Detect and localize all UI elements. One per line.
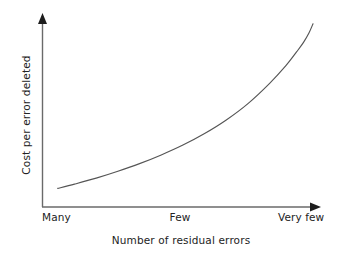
- x-tick-label-very-few: Very few: [278, 211, 322, 223]
- y-axis-arrow-icon: [38, 13, 47, 24]
- x-tick-label-few: Few: [163, 211, 197, 223]
- cost-curve: [58, 24, 313, 189]
- chart-figure: Many Few Very few Number of residual err…: [0, 0, 344, 253]
- x-tick-label-many: Many: [42, 211, 71, 223]
- x-axis-title: Number of residual errors: [42, 234, 320, 247]
- y-axis-title: Cost per error deleted: [19, 15, 33, 215]
